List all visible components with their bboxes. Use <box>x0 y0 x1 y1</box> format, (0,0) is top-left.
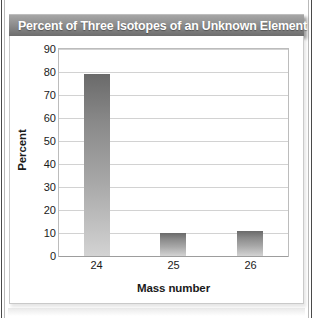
frame-rule-left-outer <box>1 0 2 318</box>
bar-25 <box>160 233 186 256</box>
page-frame: Percent of Three Isotopes of an Unknown … <box>0 0 313 318</box>
bottom-scan-shadow <box>8 308 305 316</box>
x-axis-tick-labels: 242526 <box>58 259 289 275</box>
y-axis-tick-labels: 0102030405060708090 <box>26 48 56 257</box>
frame-rule-left-inner <box>4 0 5 318</box>
y-tick-label-10: 10 <box>44 227 56 239</box>
y-tick-label-30: 30 <box>44 181 56 193</box>
bar-26 <box>237 231 263 256</box>
frame-rule-right-outer <box>311 0 312 318</box>
x-tick-label-24: 24 <box>58 259 135 275</box>
x-axis-title: Mass number <box>58 282 289 294</box>
y-tick-label-0: 0 <box>50 250 56 262</box>
bar-24 <box>84 74 110 256</box>
bar-slot <box>59 49 135 256</box>
y-tick-label-40: 40 <box>44 158 56 170</box>
bar-slot <box>212 49 288 256</box>
bar-slot <box>135 49 211 256</box>
frame-rule-right-inner <box>308 0 309 318</box>
bars-layer <box>59 49 288 256</box>
y-tick-label-60: 60 <box>44 112 56 124</box>
y-tick-label-80: 80 <box>44 66 56 78</box>
y-tick-label-20: 20 <box>44 204 56 216</box>
y-tick-label-70: 70 <box>44 89 56 101</box>
plot-area <box>58 48 289 257</box>
chart-title-bar: Percent of Three Isotopes of an Unknown … <box>9 14 304 36</box>
top-cropped-text <box>8 0 305 5</box>
y-tick-label-50: 50 <box>44 135 56 147</box>
x-tick-label-26: 26 <box>212 259 289 275</box>
y-tick-label-90: 90 <box>44 43 56 55</box>
chart-title: Percent of Three Isotopes of an Unknown … <box>18 19 307 33</box>
chart-panel: Percent 0102030405060708090 242526 Mass … <box>9 36 304 304</box>
x-tick-label-25: 25 <box>135 259 212 275</box>
figure-container: Percent of Three Isotopes of an Unknown … <box>9 14 304 304</box>
gridline-0 <box>59 256 288 257</box>
